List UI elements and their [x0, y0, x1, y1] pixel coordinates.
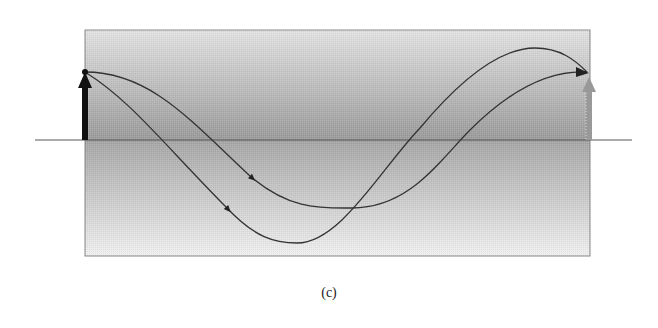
start-point [82, 69, 88, 75]
diagram-canvas [0, 0, 658, 328]
gradient-panel [85, 30, 590, 256]
figure-c: (c) [0, 0, 658, 328]
figure-caption: (c) [0, 285, 658, 301]
